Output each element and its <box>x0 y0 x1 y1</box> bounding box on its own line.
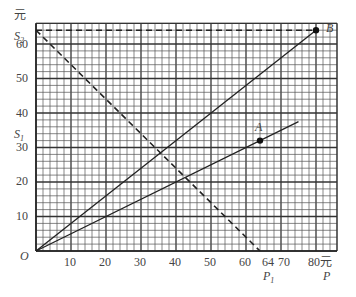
p-label: P <box>322 269 331 283</box>
point-a <box>257 137 263 143</box>
grid <box>36 23 337 251</box>
x-tick: 30 <box>134 255 146 269</box>
y-unit-label: 元 <box>14 8 26 22</box>
y-tick: 50 <box>16 71 28 85</box>
x-tick: 80元 <box>308 255 332 269</box>
point-a-label: A <box>254 120 263 134</box>
x-tick: 10 <box>64 255 76 269</box>
x-tick: 70 <box>278 255 290 269</box>
p1-label: P1 <box>262 269 274 285</box>
y-tick: 40 <box>16 106 28 120</box>
y-tick: 20 <box>16 174 28 188</box>
x-tick: 20 <box>99 255 111 269</box>
graph: 元 S2 S1 O A B 10 20 30 40 50 60 64 70 80… <box>0 0 356 297</box>
plot-lines <box>36 27 319 251</box>
y-tick: 60 <box>16 37 28 51</box>
x-tick: 50 <box>204 255 216 269</box>
origin-label: O <box>20 249 29 263</box>
y-tick: 30 <box>16 140 28 154</box>
x-tick: 40 <box>169 255 181 269</box>
y-tick: 10 <box>16 209 28 223</box>
x-tick: 60 <box>239 255 251 269</box>
point-b-label: B <box>326 21 334 35</box>
x-tick-labels: 10 20 30 40 50 60 64 70 80元 <box>64 255 332 269</box>
x-tick: 64 <box>262 255 274 269</box>
point-b <box>313 27 319 33</box>
